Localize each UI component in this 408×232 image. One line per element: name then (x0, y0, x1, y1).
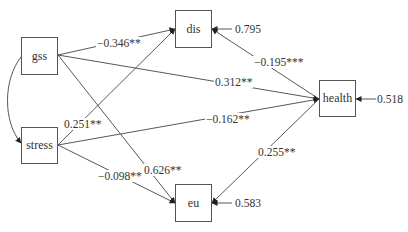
node-label: dis (186, 22, 200, 37)
node-stress: stress (21, 127, 58, 164)
residual-eu: 0.583 (235, 197, 261, 209)
coef-stress-eu: −0.098** (97, 170, 143, 182)
node-eu: eu (175, 184, 212, 222)
coef-gss-eu: 0.626** (143, 164, 182, 176)
node-health: health (319, 80, 356, 117)
node-label: gss (32, 49, 47, 64)
coef-dis-health: −0.195*** (253, 56, 305, 68)
residual-health: 0.518 (377, 93, 403, 105)
coef-gss-health: 0.312** (214, 76, 253, 88)
coef-gss-dis: −0.346** (96, 37, 142, 49)
node-gss: gss (21, 37, 58, 75)
path-diagram: gss stress dis eu health −0.346** 0.312*… (0, 0, 408, 232)
coef-stress-health: −0.162** (205, 113, 251, 125)
node-label: health (323, 91, 352, 106)
covariance-gss-stress (8, 57, 22, 143)
node-label: eu (188, 196, 199, 211)
coef-eu-health: 0.255** (257, 146, 296, 158)
coef-stress-dis: 0.251** (63, 118, 102, 130)
node-dis: dis (175, 10, 212, 48)
residual-dis: 0.795 (235, 23, 261, 35)
node-label: stress (26, 138, 53, 153)
